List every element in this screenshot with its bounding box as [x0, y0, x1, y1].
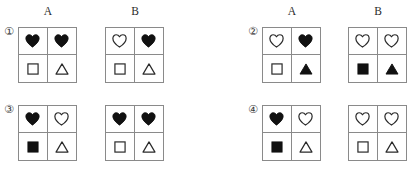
- heart-icon: [355, 112, 370, 126]
- square-icon: [27, 141, 39, 153]
- cell-top-left-heart-filled: [19, 28, 48, 55]
- cell-top-left-heart-outline: [263, 28, 292, 55]
- heart-icon: [298, 112, 313, 126]
- item-3-grid-b[interactable]: [105, 105, 164, 161]
- item-4-grid-b[interactable]: [348, 105, 407, 161]
- cell-bottom-right-triangle-outline: [48, 55, 77, 82]
- cell-bottom-left-square-filled: [263, 133, 292, 160]
- heart-icon: [25, 112, 40, 126]
- square-icon: [271, 63, 283, 75]
- heart-icon: [384, 112, 399, 126]
- column-header-a-right: A: [262, 4, 322, 18]
- heart-icon: [141, 112, 156, 126]
- item-1-grid-b[interactable]: [105, 27, 164, 83]
- cell-bottom-left-square-outline: [349, 133, 378, 160]
- heart-icon: [54, 34, 69, 48]
- cell-top-left-heart-outline: [349, 106, 378, 133]
- item-index-1: ①: [2, 25, 16, 39]
- heart-icon: [112, 112, 127, 126]
- cell-bottom-left-square-outline: [19, 55, 48, 82]
- triangle-icon: [385, 63, 399, 75]
- item-2-grid-b[interactable]: [348, 27, 407, 83]
- right-block: A B ② ④: [202, 0, 404, 174]
- heart-icon: [355, 34, 370, 48]
- item-row-1: ①: [0, 21, 202, 87]
- item-row-4: ④: [202, 99, 404, 165]
- cell-bottom-right-triangle-outline: [135, 55, 164, 82]
- item-row-2: ②: [202, 21, 404, 87]
- square-icon: [357, 141, 369, 153]
- cell-bottom-left-square-filled: [349, 55, 378, 82]
- column-header-b-right: B: [348, 4, 408, 18]
- cell-bottom-left-square-outline: [106, 133, 135, 160]
- triangle-icon: [55, 63, 69, 75]
- heart-icon: [384, 34, 399, 48]
- triangle-icon: [385, 141, 399, 153]
- cell-top-left-heart-filled: [263, 106, 292, 133]
- square-icon: [271, 141, 283, 153]
- cell-bottom-left-square-outline: [263, 55, 292, 82]
- item-3-grid-a[interactable]: [18, 105, 77, 161]
- triangle-icon: [55, 141, 69, 153]
- cell-top-right-heart-filled: [135, 28, 164, 55]
- cell-bottom-right-triangle-outline: [292, 133, 321, 160]
- heart-icon: [269, 34, 284, 48]
- heart-icon: [269, 112, 284, 126]
- cell-top-right-heart-outline: [378, 28, 407, 55]
- square-icon: [357, 63, 369, 75]
- triangle-icon: [299, 63, 313, 75]
- cell-top-right-heart-outline: [378, 106, 407, 133]
- cell-top-left-heart-outline: [106, 28, 135, 55]
- square-icon: [114, 141, 126, 153]
- item-index-3: ③: [2, 103, 16, 117]
- heart-icon: [25, 34, 40, 48]
- triangle-icon: [299, 141, 313, 153]
- cell-bottom-right-triangle-filled: [292, 55, 321, 82]
- cell-bottom-right-triangle-outline: [48, 133, 77, 160]
- cell-top-right-heart-filled: [292, 28, 321, 55]
- square-icon: [114, 63, 126, 75]
- column-header-a-left: A: [18, 4, 78, 18]
- cell-top-right-heart-outline: [292, 106, 321, 133]
- cell-top-right-heart-outline: [48, 106, 77, 133]
- heart-icon: [54, 112, 69, 126]
- item-1-grid-a[interactable]: [18, 27, 77, 83]
- cell-top-right-heart-filled: [48, 28, 77, 55]
- square-icon: [27, 63, 39, 75]
- cell-bottom-left-square-filled: [19, 133, 48, 160]
- column-header-b-left: B: [105, 4, 165, 18]
- cell-top-left-heart-filled: [19, 106, 48, 133]
- triangle-icon: [142, 141, 156, 153]
- cell-top-right-heart-filled: [135, 106, 164, 133]
- cell-top-left-heart-outline: [349, 28, 378, 55]
- item-index-4: ④: [246, 103, 260, 117]
- cell-bottom-right-triangle-outline: [378, 133, 407, 160]
- heart-icon: [141, 34, 156, 48]
- item-index-2: ②: [246, 25, 260, 39]
- item-2-grid-a[interactable]: [262, 27, 321, 83]
- item-4-grid-a[interactable]: [262, 105, 321, 161]
- cell-bottom-left-square-outline: [106, 55, 135, 82]
- left-block: A B ① ③: [0, 0, 202, 174]
- item-row-3: ③: [0, 99, 202, 165]
- cell-bottom-right-triangle-filled: [378, 55, 407, 82]
- cell-top-left-heart-filled: [106, 106, 135, 133]
- triangle-icon: [142, 63, 156, 75]
- heart-icon: [298, 34, 313, 48]
- cell-bottom-right-triangle-outline: [135, 133, 164, 160]
- heart-icon: [112, 34, 127, 48]
